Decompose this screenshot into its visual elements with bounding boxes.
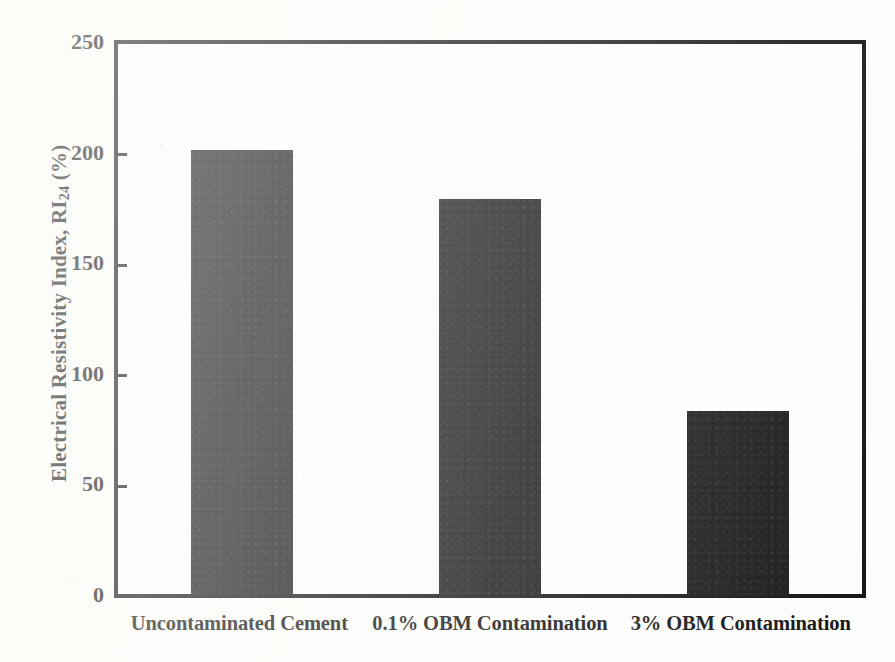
- y-axis-tick-150: [114, 264, 127, 267]
- bar-3: [687, 411, 789, 595]
- y-axis-tick-label-50: 50: [48, 473, 104, 495]
- y-axis-tick-200: [114, 153, 127, 156]
- x-axis-label-1: Uncontaminated Cement: [114, 612, 365, 635]
- x-axis-category-labels: Uncontaminated Cement0.1% OBM Contaminat…: [114, 612, 866, 635]
- y-axis-tick-labels: 050100150200250: [0, 0, 104, 662]
- plot-area: [118, 44, 862, 595]
- bar-2: [439, 199, 541, 595]
- bar-1: [191, 150, 293, 595]
- y-axis-tick-100: [114, 374, 127, 377]
- y-axis-tick-label-150: 150: [48, 252, 104, 274]
- y-axis-tick-label-0: 0: [48, 584, 104, 606]
- x-axis-label-3: 3% OBM Contamination: [615, 612, 866, 635]
- y-axis-tick-label-200: 200: [48, 142, 104, 164]
- x-axis-label-2: 0.1% OBM Contamination: [365, 612, 616, 635]
- y-axis-tick-label-250: 250: [48, 31, 104, 53]
- y-axis-tick-label-100: 100: [48, 363, 104, 385]
- y-axis-tick-50: [114, 485, 127, 488]
- figure-canvas: Electrical Resistivity Index, RI24 (%) 0…: [0, 0, 895, 662]
